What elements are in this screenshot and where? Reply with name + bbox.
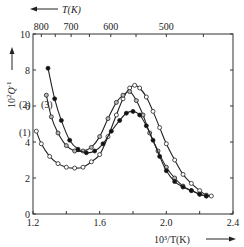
- data-point: [118, 118, 122, 122]
- data-point: [81, 165, 85, 169]
- data-point: [121, 93, 125, 97]
- data-point: [64, 144, 68, 148]
- x-axis-title: 10³/T(K): [154, 234, 190, 246]
- data-point: [114, 113, 118, 117]
- data-point: [144, 95, 148, 99]
- data-point: [173, 158, 177, 162]
- series-line: [48, 68, 206, 196]
- series-1: [34, 83, 213, 198]
- y-tick-label: 4: [25, 137, 30, 148]
- data-point: [189, 189, 193, 193]
- data-point: [151, 109, 155, 113]
- data-point: [151, 138, 155, 142]
- chart: 0246810 1.21.62.02.4 800700600500 (1)(2)…: [0, 0, 244, 247]
- x-tick-label: 1.2: [27, 217, 40, 228]
- data-point: [173, 180, 177, 184]
- data-point: [133, 83, 137, 87]
- series-layer: (1)(2)(3): [19, 66, 213, 198]
- data-point: [164, 142, 168, 146]
- data-point: [98, 153, 102, 157]
- data-point: [89, 145, 93, 149]
- data-point: [204, 194, 208, 198]
- top-axis-title: T(K): [62, 4, 82, 16]
- data-point: [144, 124, 148, 128]
- data-point: [49, 115, 53, 119]
- data-point: [48, 154, 52, 158]
- data-point: [68, 138, 72, 142]
- x-axis-label: 10³/T(K): [154, 234, 236, 246]
- data-point: [181, 172, 185, 176]
- data-point: [189, 181, 193, 185]
- data-point: [209, 194, 213, 198]
- data-point: [93, 149, 97, 153]
- top-tick-label: 500: [159, 21, 174, 32]
- x-tick-label: 2.0: [160, 217, 173, 228]
- y-tick-label: 8: [25, 65, 30, 76]
- data-point: [101, 142, 105, 146]
- top-tick-label: 700: [64, 21, 79, 32]
- data-point: [158, 126, 162, 130]
- y-axis-title: 102Q-1: [5, 81, 17, 108]
- data-point: [134, 99, 138, 103]
- data-point: [131, 109, 135, 113]
- data-point: [73, 166, 77, 170]
- x-tick-label: 2.4: [227, 217, 240, 228]
- data-point: [114, 100, 118, 104]
- series-3: [46, 66, 208, 198]
- data-point: [76, 147, 80, 151]
- data-point: [89, 160, 93, 164]
- arrowhead-icon: [10, 47, 15, 54]
- data-point: [56, 162, 60, 166]
- data-point: [109, 129, 113, 133]
- data-point: [34, 129, 38, 133]
- data-point: [39, 142, 43, 146]
- data-point: [44, 93, 48, 97]
- series-label-2: (2): [19, 99, 31, 111]
- series-label-3: (3): [41, 99, 53, 111]
- data-point: [124, 111, 128, 115]
- arrowhead-icon: [30, 7, 37, 12]
- y-axis-label: 102Q-1: [5, 47, 17, 108]
- y-tick-label: 10: [20, 29, 30, 40]
- data-point: [138, 86, 142, 90]
- data-point: [128, 90, 132, 94]
- top-axis-label: T(K): [30, 4, 82, 16]
- data-point: [53, 97, 57, 101]
- data-point: [106, 117, 110, 121]
- top-axis-ticks: 800700600500: [34, 21, 204, 37]
- x-tick-label: 1.6: [93, 217, 106, 228]
- series-2: [44, 90, 208, 198]
- top-tick-label: 800: [34, 21, 49, 32]
- data-point: [84, 151, 88, 155]
- data-point: [56, 131, 60, 135]
- y-tick-label: 2: [25, 173, 30, 184]
- series-line: [46, 91, 206, 196]
- arrowhead-icon: [229, 237, 236, 242]
- data-point: [158, 154, 162, 158]
- top-tick-label: 600: [103, 21, 118, 32]
- data-point: [98, 135, 102, 139]
- data-point: [181, 185, 185, 189]
- data-point: [138, 113, 142, 117]
- data-point: [198, 192, 202, 196]
- data-point: [64, 165, 68, 169]
- data-point: [59, 118, 63, 122]
- data-point: [46, 66, 50, 70]
- data-point: [164, 169, 168, 173]
- series-label-1: (1): [19, 127, 31, 139]
